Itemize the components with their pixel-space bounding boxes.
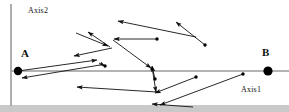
vector-arrow [155, 77, 196, 93]
axis1-label: Axis1 [241, 86, 261, 94]
diagram-canvas [0, 0, 289, 112]
vector-arrow [18, 60, 97, 71]
point-a-label: A [21, 48, 29, 59]
node-dot [194, 75, 197, 78]
node-dot [241, 72, 244, 75]
node-dot [155, 37, 158, 40]
node-dot [150, 67, 153, 70]
endpoint-marker-a [14, 67, 22, 75]
endpoint-marker-b [263, 66, 272, 75]
vector-arrow [113, 40, 151, 68]
vector-arrow [77, 87, 157, 92]
axis2-label: Axis2 [28, 7, 48, 15]
point-b-label: B [262, 47, 269, 58]
bottom-band [0, 105, 289, 112]
node-dot [203, 43, 206, 46]
node-dot [153, 77, 156, 80]
vector-arrow [74, 48, 112, 56]
vector-arrows [18, 21, 243, 107]
vector-diagram-figure: Axis2 Axis1 A B [0, 0, 289, 112]
vector-arrow [160, 74, 243, 105]
node-dot [103, 64, 106, 67]
node-dots [103, 37, 244, 80]
